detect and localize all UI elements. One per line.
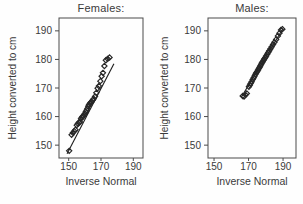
data-point — [102, 63, 107, 68]
y-tick-label: 170 — [35, 83, 52, 94]
y-tick-label: 150 — [35, 140, 52, 151]
x-tick-label: 150 — [206, 161, 223, 172]
y-tick-label: 190 — [184, 25, 201, 36]
y-tick-label: 180 — [35, 54, 52, 65]
x-axis-label-males: Inverse Normal — [178, 175, 303, 187]
females-plot-canvas: 150160170180190150170190 — [0, 0, 151, 204]
x-tick-label: 190 — [275, 161, 292, 172]
males-plot-canvas: 150160170180190150170190 — [152, 0, 303, 204]
y-tick-label: 180 — [184, 54, 201, 65]
plot-box — [208, 18, 296, 158]
y-tick-label: 170 — [184, 83, 201, 94]
y-tick-label: 190 — [35, 25, 52, 36]
x-tick-label: 150 — [60, 161, 77, 172]
males-qq-plot: Males: Height converted to cm 1501601701… — [152, 0, 303, 204]
y-tick-label: 160 — [35, 111, 52, 122]
x-tick-label: 170 — [240, 161, 257, 172]
x-tick-label: 190 — [125, 161, 142, 172]
females-qq-plot: Females: Height converted to cm 15016017… — [0, 0, 151, 204]
y-tick-label: 150 — [184, 140, 201, 151]
x-tick-label: 170 — [93, 161, 110, 172]
y-tick-label: 160 — [184, 111, 201, 122]
height-qq-figure: Females: Height converted to cm 15016017… — [0, 0, 303, 204]
